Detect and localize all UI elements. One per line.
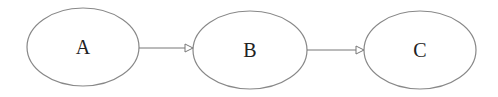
flow-diagram: A B C xyxy=(0,0,498,97)
node-b-label: B xyxy=(243,39,256,61)
node-c-label: C xyxy=(413,39,426,61)
node-a: A xyxy=(27,8,139,86)
node-a-label: A xyxy=(76,36,91,58)
node-c: C xyxy=(364,11,476,89)
node-b: B xyxy=(193,11,307,89)
